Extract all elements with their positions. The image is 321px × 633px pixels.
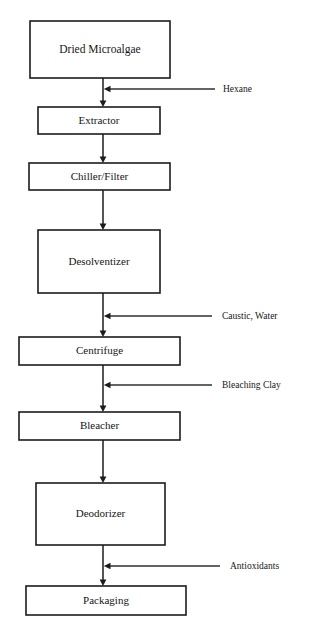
arrowhead-down-icon (100, 331, 107, 338)
process-box-label: Bleacher (80, 419, 119, 431)
input-stream-caustic-water: Caustic, Water (104, 311, 279, 321)
process-box-desolventizer[interactable]: Desolventizer (38, 230, 160, 293)
process-box-label: Dried Microalgae (59, 43, 140, 56)
flow-connector (100, 440, 107, 483)
arrowhead-left-icon (104, 86, 111, 92)
process-box-label: Centrifuge (76, 344, 123, 356)
process-box-packaging[interactable]: Packaging (26, 586, 186, 615)
arrowhead-left-icon (104, 382, 111, 388)
flow-connector (100, 78, 107, 107)
arrowhead-left-icon (104, 313, 111, 319)
arrowhead-down-icon (100, 406, 107, 413)
arrowhead-down-icon (100, 477, 107, 484)
arrowhead-down-icon (100, 580, 107, 587)
process-box-dried-microalgae[interactable]: Dried Microalgae (30, 21, 170, 78)
flow-connector (100, 293, 107, 337)
process-box-label: Desolventizer (68, 255, 129, 267)
arrowhead-left-icon (104, 563, 111, 569)
flow-connector (100, 134, 107, 163)
input-stream-bleaching-clay: Bleaching Clay (104, 380, 281, 390)
process-box-label: Chiller/Filter (71, 170, 129, 182)
input-stream-label: Antioxidants (230, 561, 279, 571)
input-stream-label: Caustic, Water (222, 311, 278, 321)
input-stream-label: Bleaching Clay (222, 380, 281, 390)
arrowhead-down-icon (100, 157, 107, 164)
process-box-extractor[interactable]: Extractor (38, 107, 160, 134)
process-box-deodorizer[interactable]: Deodorizer (36, 483, 165, 545)
process-box-centrifuge[interactable]: Centrifuge (19, 337, 180, 365)
process-box-bleacher[interactable]: Bleacher (19, 412, 180, 440)
input-stream-antioxidants: Antioxidants (104, 561, 280, 571)
flow-connector (100, 190, 107, 230)
process-box-chiller-filter[interactable]: Chiller/Filter (29, 163, 170, 190)
arrowhead-down-icon (100, 101, 107, 108)
flowchart-canvas: HexaneCaustic, WaterBleaching ClayAntiox… (0, 0, 321, 633)
process-box-label: Extractor (79, 114, 120, 126)
flow-connector (100, 365, 107, 412)
process-flow-diagram: HexaneCaustic, WaterBleaching ClayAntiox… (0, 0, 321, 633)
process-box-label: Packaging (83, 594, 129, 606)
input-stream-label: Hexane (223, 84, 252, 94)
input-stream-hexane: Hexane (104, 84, 252, 94)
process-box-label: Deodorizer (76, 507, 126, 519)
arrowhead-down-icon (100, 224, 107, 231)
